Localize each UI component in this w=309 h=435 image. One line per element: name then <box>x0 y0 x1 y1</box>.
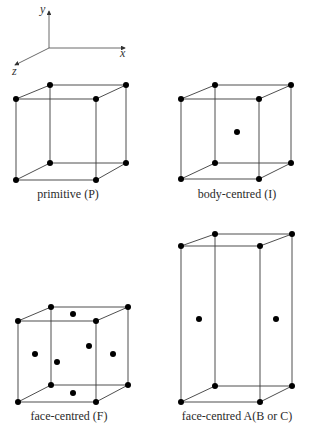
label-face-centred: face-centred (F) <box>31 409 108 424</box>
lattice-diagram <box>0 0 309 435</box>
face-centred-atoms <box>15 304 131 405</box>
body-centre-atom <box>234 129 240 135</box>
z-axis-label: z <box>12 64 17 79</box>
face-centred-a-atoms <box>178 231 295 405</box>
z-axis <box>15 48 49 65</box>
label-body-centred: body-centred (I) <box>198 187 276 202</box>
axes <box>15 11 125 65</box>
primitive-atoms <box>13 82 129 183</box>
x-axis-label: x <box>120 46 125 61</box>
primitive-cell <box>16 85 126 180</box>
body-centred-atoms <box>178 82 294 182</box>
label-primitive: primitive (P) <box>37 187 99 202</box>
y-axis-label: y <box>40 2 45 17</box>
label-face-centred-a: face-centred A(B or C) <box>182 409 292 424</box>
